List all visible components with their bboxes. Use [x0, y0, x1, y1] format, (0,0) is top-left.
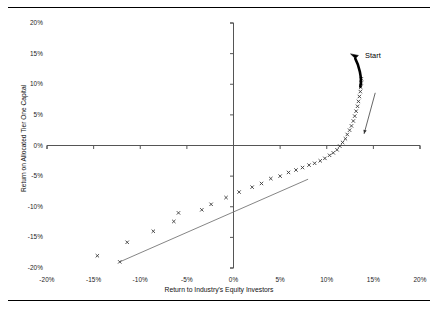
data-point	[358, 95, 361, 98]
data-point	[313, 162, 316, 165]
data-point	[287, 171, 290, 174]
data-point	[237, 190, 240, 193]
x-tick-label: 20%	[405, 276, 435, 283]
y-tick-label: 20%	[17, 19, 43, 26]
data-point	[350, 124, 353, 127]
data-point	[346, 133, 349, 136]
start-annotation-label: Start	[365, 51, 381, 60]
figure-container: -20%-15%-10%-5%0%5%10%15%20%-20%-15%-10%…	[0, 0, 438, 309]
x-axis-title: Return to Industry's Equity Investors	[0, 286, 438, 293]
data-point	[96, 254, 99, 257]
reference-line-group	[120, 179, 308, 262]
data-point	[224, 196, 227, 199]
data-point	[125, 241, 128, 244]
x-tick-label: 0%	[219, 276, 249, 283]
start-arrow-shaft	[355, 59, 361, 87]
data-point	[356, 105, 359, 108]
data-point	[323, 157, 326, 160]
data-point	[319, 159, 322, 162]
data-point	[332, 151, 335, 154]
x-tick-label: -20%	[32, 276, 62, 283]
data-point	[307, 163, 310, 166]
data-point	[152, 230, 155, 233]
data-point	[352, 119, 355, 122]
data-point	[359, 90, 362, 93]
data-point	[338, 144, 341, 147]
data-point	[269, 177, 272, 180]
y-tick-label: 15%	[17, 50, 43, 57]
axes-group	[47, 23, 420, 268]
x-tick-label: 5%	[265, 276, 295, 283]
scatter-plot-canvas	[0, 0, 438, 309]
data-point	[328, 154, 331, 157]
y-tick-label: -20%	[17, 264, 43, 271]
data-point	[200, 208, 203, 211]
data-points-group	[96, 77, 363, 264]
data-point	[294, 168, 297, 171]
x-tick-label: 15%	[358, 276, 388, 283]
data-point	[278, 174, 281, 177]
x-tick-label: -15%	[79, 276, 109, 283]
data-point	[250, 185, 253, 188]
data-point	[335, 148, 338, 151]
x-tick-label: -10%	[125, 276, 155, 283]
x-tick-label: -5%	[172, 276, 202, 283]
direction-arrow-shaft	[364, 93, 375, 134]
data-point	[357, 100, 360, 103]
data-point	[348, 128, 351, 131]
data-point	[344, 137, 347, 140]
data-point	[354, 110, 357, 113]
data-point	[209, 203, 212, 206]
y-axis-title: Return on Allocated Tier One Capital	[20, 69, 27, 209]
data-point	[301, 166, 304, 169]
data-point	[118, 260, 121, 263]
data-point	[353, 114, 356, 117]
start-arrow-head	[351, 54, 359, 59]
data-point	[260, 182, 263, 185]
y-tick-label: -15%	[17, 233, 43, 240]
x-tick-label: 10%	[312, 276, 342, 283]
data-point	[172, 220, 175, 223]
data-point	[341, 141, 344, 144]
data-point	[177, 211, 180, 214]
